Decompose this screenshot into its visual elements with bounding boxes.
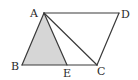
label-d: D (121, 8, 130, 21)
label-a: A (29, 7, 39, 20)
label-c: C (97, 65, 105, 78)
geometry-figure: A D B E C (0, 0, 138, 80)
label-e: E (63, 67, 71, 80)
shaded-triangle-abe (22, 13, 67, 65)
label-b: B (11, 60, 19, 73)
segment-cd (97, 13, 119, 65)
